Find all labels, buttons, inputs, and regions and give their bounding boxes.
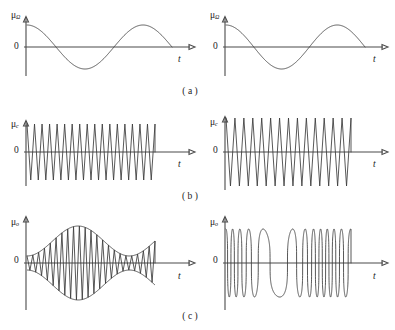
panel-c-right	[223, 214, 395, 314]
y-axis-label-a-right: μΩ	[210, 11, 219, 21]
waveform-plot-b-left	[24, 118, 196, 190]
origin-label-b-right: 0	[213, 146, 218, 156]
row-caption-b: ( b )	[165, 191, 215, 201]
waveform-plot-b-right	[223, 114, 395, 194]
panel-a-right	[223, 14, 395, 82]
axes-a-left	[24, 17, 196, 77]
x-axis-label-a-right: t	[373, 55, 376, 65]
axes-c-left	[24, 217, 196, 311]
y-axis-label-c-right: μo	[210, 218, 218, 228]
x-axis-label-c-right: t	[373, 272, 376, 282]
origin-label-a-left: 0	[14, 42, 19, 52]
row-caption-a: ( a )	[165, 86, 215, 96]
waveform-plot-a-left	[24, 14, 196, 82]
axes-b-right	[223, 117, 389, 191]
x-axis-label-b-left: t	[178, 160, 181, 170]
x-axis-label-a-left: t	[178, 55, 181, 65]
y-axis-label-c-left: μo	[11, 218, 19, 228]
modulation-figure: μΩ 0 t μΩ 0 t ( a ) μc 0 t	[0, 0, 395, 330]
panel-b-left	[24, 118, 196, 190]
panel-a-left	[24, 14, 196, 82]
origin-label-c-left: 0	[14, 256, 19, 266]
row-caption-c: ( c )	[165, 311, 215, 321]
axes-a-right	[223, 17, 389, 77]
y-axis-label-b-right: μc	[210, 118, 218, 128]
axes-c-right	[223, 217, 389, 311]
y-axis-label-b-left: μc	[11, 120, 19, 130]
waveform-plot-a-right	[223, 14, 395, 82]
origin-label-b-left: 0	[14, 146, 19, 156]
waveform-plot-c-right	[223, 214, 395, 314]
panel-b-right	[223, 114, 395, 194]
x-axis-label-c-left: t	[178, 272, 181, 282]
panel-c-left	[24, 214, 196, 314]
origin-label-c-right: 0	[213, 256, 218, 266]
origin-label-a-right: 0	[213, 42, 218, 52]
am-envelope-lower	[27, 270, 155, 300]
x-axis-label-b-right: t	[373, 160, 376, 170]
y-axis-label-a-left: μΩ	[11, 11, 20, 21]
waveform-plot-c-left	[24, 214, 196, 314]
